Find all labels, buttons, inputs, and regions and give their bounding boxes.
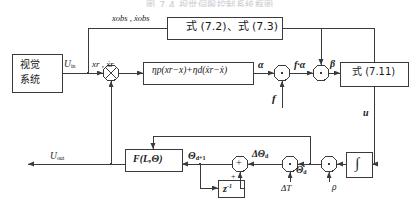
signal-u: u — [363, 108, 369, 118]
signal-beta: β — [330, 59, 335, 69]
signal-f-alpha: f·α — [294, 60, 305, 70]
node-dot-xref — [86, 71, 89, 74]
node-dot-feedback — [308, 162, 311, 165]
u-in-subscript: in — [71, 63, 76, 69]
signal-f: f — [272, 93, 276, 104]
signal-x-obs: xobs , ẋobs — [112, 14, 150, 23]
integrator-label: ∫ — [355, 156, 359, 171]
signal-x-ref: xr , ẋr — [92, 60, 114, 69]
theta-d1-subscript: d+1 — [196, 154, 206, 161]
node-dot-delay-tap — [198, 162, 201, 165]
delay-label: z-1 — [223, 183, 232, 194]
eq711-label: 式 (7.11) — [352, 67, 395, 77]
delay-exponent: -1 — [227, 183, 232, 189]
sum-plus-bottom: + — [231, 173, 236, 181]
theta-dot-subscript: d — [303, 169, 306, 175]
pd-controller-label: ηp(xr−x)+ηd(ẋr−ẋ) — [152, 66, 227, 76]
figure-canvas: 图 7.4 视觉伺服控制系统框图 — [0, 0, 420, 213]
signal-delta-theta-d: ΔΘd — [252, 150, 268, 160]
delta-theta-subscript: d — [265, 153, 268, 159]
theta-d1-symbol: Θ — [188, 150, 196, 161]
wire-tap-to-delay — [200, 164, 218, 188]
vision-system-label-line1: 视觉 — [20, 60, 40, 70]
signal-u-out: Uout — [50, 152, 64, 162]
u-out-symbol: U — [50, 151, 57, 161]
sum-plus-left: + — [236, 158, 242, 168]
signal-alpha: α — [258, 60, 264, 70]
wire-eq711-to-observer — [282, 28, 374, 62]
u-in-symbol: U — [64, 59, 71, 69]
node-dot-uout — [109, 162, 112, 165]
signal-theta-d1: Θd+1 — [188, 151, 206, 162]
signal-theta-dot-d: Θ̇d — [296, 166, 307, 176]
signal-delta-T: ΔT — [281, 184, 291, 193]
signal-rho: ρ — [332, 183, 337, 193]
vision-system-label-line2: 系统 — [20, 75, 40, 85]
signal-u-in: Uin — [64, 60, 75, 70]
u-out-subscript: out — [57, 155, 65, 161]
kinematics-label: F(L,Θ) — [133, 154, 163, 164]
observer-label: 式 (7.2)、式 (7.3) — [186, 21, 278, 32]
delta-theta-symbol: ΔΘ — [252, 149, 265, 159]
